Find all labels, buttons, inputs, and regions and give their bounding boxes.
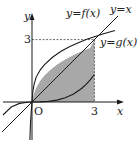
f-curve-label: y=f(x) <box>65 7 100 20</box>
identity-line-label: y=x <box>109 3 132 16</box>
y-axis-label: y <box>23 10 31 23</box>
identity-line <box>2 16 118 132</box>
x-axis-arrow-icon <box>117 100 124 105</box>
y-tick-label: 3 <box>24 33 31 46</box>
x-tick-label: 3 <box>91 105 98 118</box>
function-graph-diagram: y=f(x) y=x y=g(x) y x 3 3 O <box>0 0 137 143</box>
g-curve-label: y=g(x) <box>99 36 137 49</box>
graph-canvas: y=f(x) y=x y=g(x) y x 3 3 O <box>0 0 137 143</box>
y-axis-arrow-icon <box>30 13 35 20</box>
x-axis-label: x <box>117 105 124 118</box>
origin-label: O <box>34 105 43 118</box>
